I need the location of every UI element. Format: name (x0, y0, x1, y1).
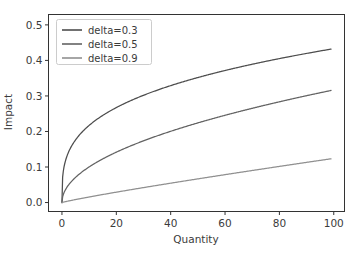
y-tick-label: 0.5 (26, 19, 43, 31)
x-tick-label: 20 (110, 217, 123, 229)
legend-label-0: delta=0.3 (88, 25, 138, 36)
chart-legend[interactable]: delta=0.3delta=0.5delta=0.9 (57, 20, 152, 65)
x-axis-title: Quantity (173, 233, 218, 245)
legend-label-2: delta=0.9 (88, 53, 138, 64)
y-tick-label: 0.0 (26, 196, 43, 208)
x-tick-label: 100 (324, 217, 344, 229)
y-axis-title: Impact (2, 94, 14, 130)
legend-label-1: delta=0.5 (88, 39, 138, 50)
y-tick-label: 0.4 (26, 54, 43, 66)
x-tick-label: 40 (164, 217, 177, 229)
y-tick-label: 0.1 (26, 161, 43, 173)
x-tick-label: 80 (273, 217, 286, 229)
x-tick-label: 60 (218, 217, 231, 229)
y-tick-label: 0.3 (26, 90, 43, 102)
y-tick-label: 0.2 (26, 125, 43, 137)
line-chart: 020406080100 0.00.10.20.30.40.5 Quantity… (0, 0, 364, 257)
chart-figure: 020406080100 0.00.10.20.30.40.5 Quantity… (0, 0, 364, 257)
x-tick-label: 0 (59, 217, 66, 229)
